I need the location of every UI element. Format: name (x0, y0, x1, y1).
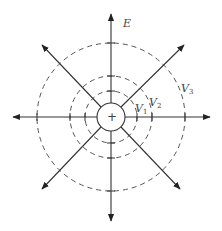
field-label-e: E (123, 18, 131, 29)
diagram-canvas: + E V1 V2 V3 (0, 0, 222, 231)
charge-sign: + (107, 111, 117, 123)
label-v3: V3 (181, 83, 193, 96)
label-v1: V1 (135, 103, 147, 116)
label-v2: V2 (149, 97, 161, 110)
